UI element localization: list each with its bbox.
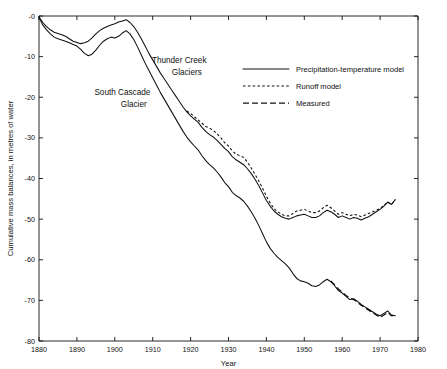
x-axis-title: Year [221, 359, 237, 368]
y-axis-title: Cumulative mass balances, in metres of w… [6, 100, 15, 256]
y-tick-label: -40 [25, 174, 35, 183]
y-tick-label: -20 [25, 93, 35, 102]
x-tick-label: 1920 [183, 345, 199, 354]
annotation-label: Glacier [121, 100, 147, 109]
x-tick-label: 1930 [221, 345, 237, 354]
x-tick-label: 1890 [69, 345, 85, 354]
x-tick-label: 1880 [31, 345, 47, 354]
y-tick-label: -30 [25, 133, 35, 142]
annotation-label: Thunder Creek [152, 56, 208, 65]
y-tick-label: -70 [25, 296, 35, 305]
x-tick-label: 1960 [334, 345, 350, 354]
x-tick-label: 1940 [258, 345, 274, 354]
x-tick-label: 1950 [296, 345, 312, 354]
series-line [39, 17, 395, 220]
legend-label: Measured [296, 99, 330, 108]
legend-label: Precipitation-temperature model [296, 65, 404, 74]
curve-annotations: Thunder CreekGlaciersSouth CascadeGlacie… [94, 56, 207, 110]
legend-label: Runoff model [296, 82, 341, 91]
series-line [187, 111, 395, 217]
y-tick-label: -0 [29, 12, 35, 21]
figure-container: 1880189019001910192019301940195019601970… [0, 0, 447, 369]
annotation-label: Glaciers [172, 68, 202, 77]
axis-titles: YearCumulative mass balances, in metres … [6, 100, 237, 368]
y-tick-label: -80 [25, 337, 35, 346]
data-series [39, 17, 395, 318]
annotation-label: South Cascade [94, 88, 150, 97]
y-tick-label: -60 [25, 255, 35, 264]
x-tick-label: 1970 [372, 345, 388, 354]
x-tick-label: 1910 [145, 345, 161, 354]
cumulative-mass-balance-chart: 1880189019001910192019301940195019601970… [0, 0, 447, 369]
legend: Precipitation-temperature modelRunoff mo… [243, 65, 404, 108]
series-line [39, 18, 395, 316]
y-tick-label: -10 [25, 52, 35, 61]
x-tick-label: 1900 [107, 345, 123, 354]
x-tick-label: 1980 [410, 345, 426, 354]
y-tick-label: -50 [25, 215, 35, 224]
